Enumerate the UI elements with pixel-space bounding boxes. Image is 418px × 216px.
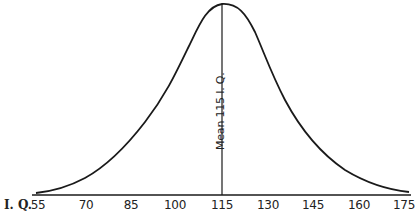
- x-tick-label: 130: [257, 198, 279, 212]
- x-tick-label: 100: [164, 198, 186, 212]
- x-tick-label: 115: [211, 198, 233, 212]
- x-axis-prefix-label: I. Q.: [4, 198, 32, 212]
- x-tick-label: 145: [302, 198, 324, 212]
- x-tick-label: 85: [124, 198, 139, 212]
- x-tick-label: 70: [79, 198, 94, 212]
- x-tick-label: 175: [393, 198, 415, 212]
- mean-annotation-label: Mean 115 I. Q.: [214, 72, 227, 150]
- x-tick-label: 160: [348, 198, 370, 212]
- bell-curve-chart: [0, 0, 418, 216]
- x-tick-label: 55: [31, 198, 46, 212]
